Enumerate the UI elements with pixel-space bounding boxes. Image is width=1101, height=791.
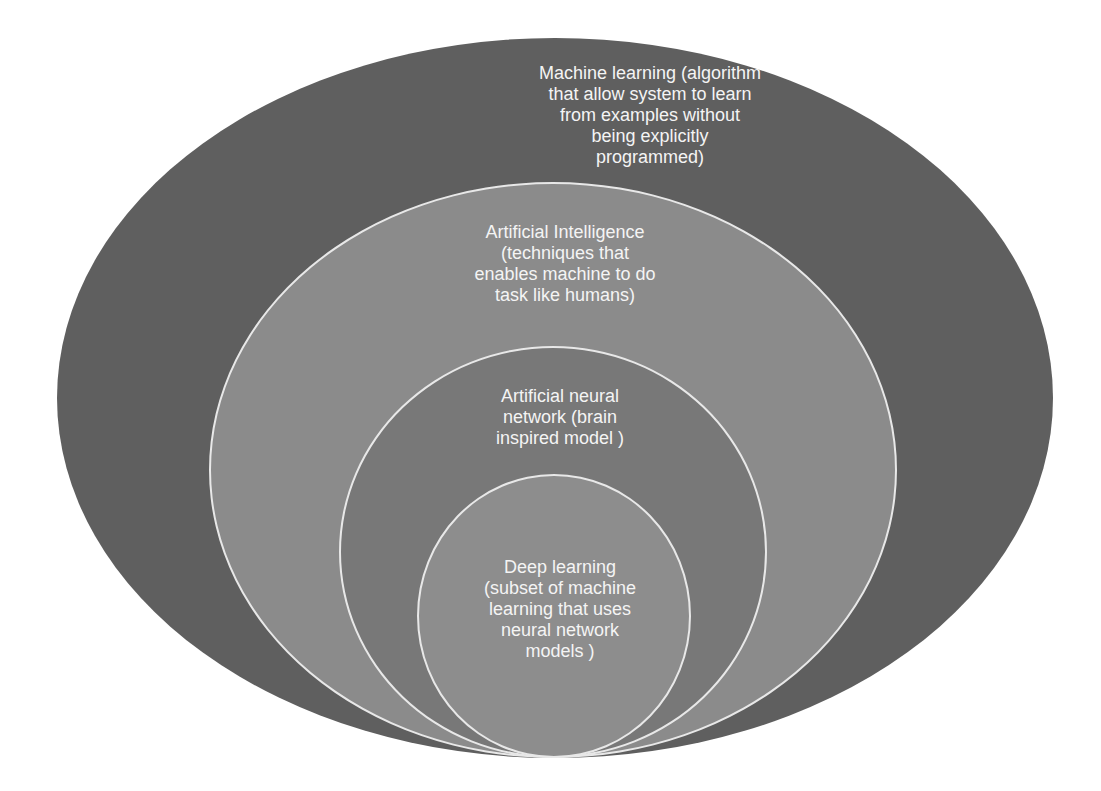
label-artificial-neural-network: Artificial neural network (brain inspire… <box>455 386 665 449</box>
label-deep-learning: Deep learning (subset of machine learnin… <box>455 557 665 662</box>
label-artificial-intelligence: Artificial Intelligence (techniques that… <box>440 222 690 306</box>
label-machine-learning: Machine learning (algorithm that allow s… <box>505 63 795 168</box>
nested-ellipse-diagram: Machine learning (algorithm that allow s… <box>0 0 1101 791</box>
